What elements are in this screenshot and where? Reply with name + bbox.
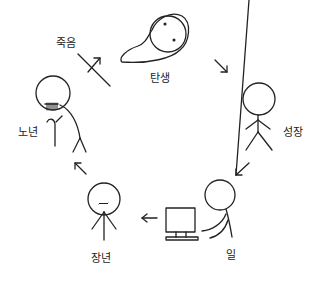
label-birth: 탄생 [150,73,170,84]
growth-figure [243,83,275,150]
label-death: 죽음 [56,38,76,49]
arrow-middle-age-to-old-age [75,163,86,174]
death-arrow [78,54,110,86]
arrow-work-to-middle-age [142,214,157,222]
middle-age-figure [88,183,120,240]
label-middle-age: 장년 [91,253,111,264]
label-work: 일 [226,250,236,261]
arrow-birth-to-growth [215,60,227,72]
label-old-age: 노년 [18,127,38,138]
life-cycle-diagram: 탄생 성장 일 장년 노년 죽음 [0,0,321,283]
work-figure [166,180,235,240]
label-growth: 성장 [283,127,303,138]
birth-figure [121,14,189,62]
old-age-figure [36,76,86,152]
